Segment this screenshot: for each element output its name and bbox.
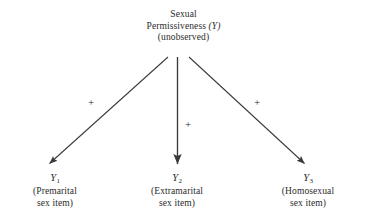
- indicator-label-y1: Y1 (Premarital sex item): [0, 171, 110, 209]
- indicator-label-y2: Y2 (Extramarital sex item): [122, 171, 232, 209]
- indicator-symbol-y1-subscript: 1: [56, 177, 60, 185]
- path-sign-left: +: [88, 97, 94, 108]
- indicator-y1-line-2: sex item): [0, 198, 110, 210]
- indicator-y2-line-2: sex item): [122, 198, 232, 210]
- indicator-label-y3: Y3 (Homosexual sex item): [253, 171, 363, 209]
- latent-variable-label: Sexual Permissiveness (Y) (unobserved): [107, 9, 260, 44]
- arrow-to-y3: [189, 57, 305, 164]
- indicator-symbol-y1: Y1: [0, 171, 110, 186]
- indicator-symbol-y2-subscript: 2: [178, 177, 182, 185]
- indicator-y3-line-1: (Homosexual: [253, 186, 363, 198]
- path-diagram: Sexual Permissiveness (Y) (unobserved) Y…: [0, 0, 367, 222]
- indicator-symbol-y2: Y2: [122, 171, 232, 186]
- indicator-symbol-y3: Y3: [253, 171, 363, 186]
- path-sign-middle: +: [185, 119, 191, 130]
- latent-line-3: (unobserved): [158, 32, 209, 42]
- arrow-to-y1: [50, 57, 169, 164]
- latent-line-1: Sexual: [170, 9, 196, 19]
- latent-variable-symbol: (Y): [209, 21, 221, 31]
- indicator-symbol-y3-subscript: 3: [309, 177, 313, 185]
- indicator-y2-line-1: (Extramarital: [122, 186, 232, 198]
- path-sign-right: +: [254, 97, 260, 108]
- indicator-y1-line-1: (Premarital: [0, 186, 110, 198]
- latent-line-2: Permissiveness: [147, 21, 206, 31]
- indicator-y3-line-2: sex item): [253, 198, 363, 210]
